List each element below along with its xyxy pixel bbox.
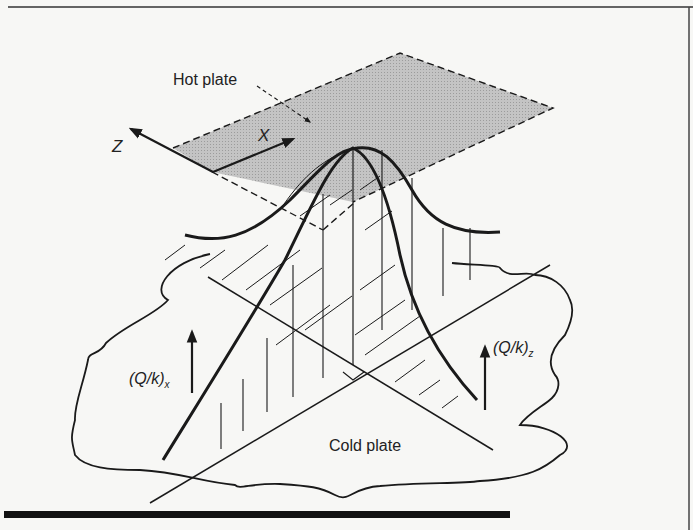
right-angle-marker (343, 372, 364, 380)
heat-flux-z-subscript: z (529, 348, 534, 359)
hot-plate-label: Hot plate (173, 72, 237, 88)
cold-plate-label: Cold plate (329, 438, 401, 454)
heat-flux-x-subscript: x (165, 379, 170, 390)
z-profile-hatching (165, 176, 458, 408)
cold-plate-z-line (208, 277, 493, 450)
hot-plate-edge-front2 (323, 202, 355, 230)
z-axis-label: Z (112, 138, 122, 155)
bottom-rule (4, 511, 510, 518)
heat-flux-z-label: (Q/k)z (493, 340, 534, 359)
heat-flux-z-text: (Q/k) (493, 339, 529, 356)
heat-flux-x-label: (Q/k)x (129, 371, 170, 390)
heat-flux-x-text: (Q/k) (129, 370, 165, 387)
x-axis-label: X (258, 127, 269, 144)
